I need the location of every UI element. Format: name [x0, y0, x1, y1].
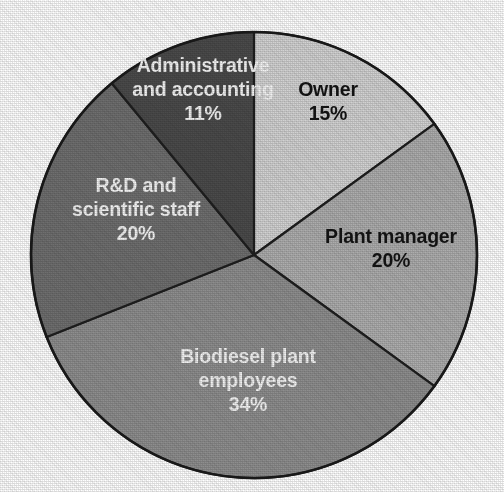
pie-slice-label-line: and accounting — [132, 78, 273, 100]
pie-slice-label-line: 20% — [117, 222, 155, 244]
pie-slice-label-line: Plant manager — [325, 225, 457, 247]
pie-slice-label-line: 20% — [372, 249, 410, 271]
pie-slice-label-line: Biodiesel plant — [180, 345, 316, 367]
pie-slice-label-line: 15% — [309, 102, 347, 124]
pie-slice-label-line: 11% — [184, 102, 221, 124]
pie-slice-label-line: R&D and — [96, 174, 177, 196]
pie-slice-label-line: 34% — [229, 393, 267, 415]
pie-slice-label-line: scientific staff — [72, 198, 201, 220]
pie-slice-label-line: employees — [198, 369, 297, 391]
pie-chart-canvas: Owner15%Plant manager20%Biodiesel plante… — [0, 0, 504, 492]
pie-chart-figure: Owner15%Plant manager20%Biodiesel plante… — [0, 0, 504, 492]
pie-slice-label-line: Administrative — [137, 54, 270, 76]
pie-slice-label-line: Owner — [298, 78, 358, 100]
